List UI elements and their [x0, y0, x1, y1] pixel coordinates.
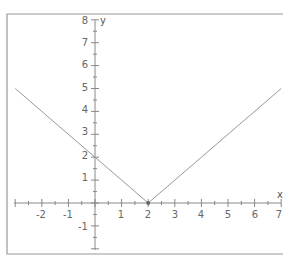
- y-tick-label: 5: [82, 82, 88, 93]
- y-tick-label: 4: [82, 104, 88, 115]
- y-axis-label: y: [100, 15, 106, 26]
- x-tick-label: -1: [63, 209, 73, 220]
- y-tick-label: 7: [82, 37, 88, 48]
- y-ticks: [91, 20, 99, 249]
- x-tick-label: 2: [145, 209, 151, 220]
- x-tick-label: 1: [118, 209, 124, 220]
- x-axis-label: x: [277, 189, 283, 200]
- y-tick-label: 8: [82, 15, 88, 26]
- x-tick-label: -2: [36, 209, 46, 220]
- x-tick-label: 7: [276, 209, 282, 220]
- x-tick-label: 5: [225, 209, 231, 220]
- x-tick-label: 6: [252, 209, 258, 220]
- y-tick-label: 2: [82, 150, 88, 161]
- y-tick-label: -1: [78, 221, 88, 232]
- y-tick-label: 3: [82, 126, 88, 137]
- chart-canvas: -2 -1 1 2 3 4 5 6 7 8 7 6 5 4 3 2 1 -1 y…: [0, 0, 283, 265]
- x-tick-label: 3: [172, 209, 178, 220]
- y-tick-label: 6: [82, 59, 88, 70]
- x-tick-label: 4: [198, 209, 204, 220]
- vertex-point: [146, 201, 150, 205]
- function-curve: [15, 89, 281, 204]
- y-tick-label: 1: [82, 172, 88, 183]
